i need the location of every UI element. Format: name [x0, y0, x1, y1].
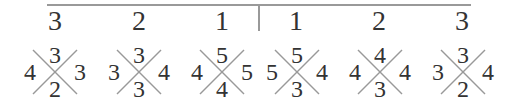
- cross-bottom-value: 3: [370, 77, 390, 101]
- cross-right-value: 5: [237, 60, 257, 84]
- cross-diagram-1: 3 4 3 2: [31, 48, 79, 96]
- center-divider: [258, 5, 260, 31]
- cross-bottom-value: 2: [45, 77, 65, 101]
- cross-left-value: 3: [428, 60, 448, 84]
- cross-diagram-6: 3 3 4 2: [439, 48, 487, 96]
- cross-top-value: 3: [129, 43, 149, 67]
- cross-bottom-value: 2: [453, 77, 473, 101]
- cross-left-value: 5: [262, 60, 282, 84]
- cross-right-value: 4: [312, 60, 332, 84]
- cross-left-value: 4: [20, 60, 40, 84]
- cross-left-value: 4: [345, 60, 365, 84]
- header-number: 2: [119, 6, 159, 36]
- header-number: 1: [276, 6, 316, 36]
- header-number: 3: [442, 6, 482, 36]
- cross-right-value: 4: [478, 60, 498, 84]
- cross-top-value: 4: [370, 43, 390, 67]
- cross-right-value: 4: [154, 60, 174, 84]
- header-number: 1: [202, 6, 242, 36]
- cross-top-value: 3: [453, 43, 473, 67]
- cross-diagram-5: 4 4 4 3: [356, 48, 404, 96]
- cross-diagram-2: 3 3 4 3: [115, 48, 163, 96]
- header-number: 2: [359, 6, 399, 36]
- cross-bottom-value: 3: [129, 77, 149, 101]
- cross-left-value: 3: [104, 60, 124, 84]
- cross-top-value: 3: [45, 43, 65, 67]
- header-number: 3: [35, 6, 75, 36]
- cross-right-value: 4: [395, 60, 415, 84]
- cross-top-value: 5: [287, 43, 307, 67]
- cross-bottom-value: 4: [212, 77, 232, 101]
- cross-diagram-4: 5 5 4 3: [273, 48, 321, 96]
- cross-right-value: 3: [70, 60, 90, 84]
- cross-diagram-3: 5 4 5 4: [198, 48, 246, 96]
- cross-bottom-value: 3: [287, 77, 307, 101]
- cross-left-value: 4: [187, 60, 207, 84]
- cross-top-value: 5: [212, 43, 232, 67]
